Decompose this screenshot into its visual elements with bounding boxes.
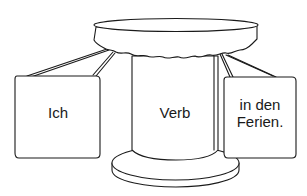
- right-card-strings: [220, 54, 276, 77]
- right-card-line-2: Ferien.: [224, 113, 296, 130]
- right-card-label: in den Ferien.: [224, 96, 296, 130]
- left-card-strings: [27, 49, 115, 77]
- right-card-line-1: in den: [224, 96, 296, 113]
- table-top: [94, 19, 258, 59]
- left-card-label: Ich: [15, 104, 101, 121]
- center-column-label: Verb: [132, 104, 218, 121]
